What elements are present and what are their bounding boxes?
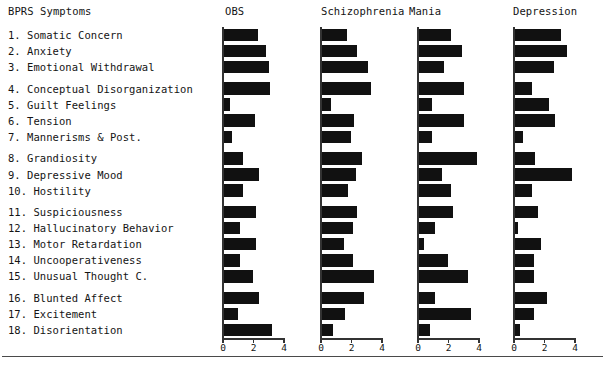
symptom-label: 1. Somatic Concern — [8, 27, 218, 43]
bar — [513, 206, 538, 219]
bar — [222, 45, 266, 58]
bar — [417, 254, 448, 267]
bar-row — [222, 113, 289, 129]
bar-row — [417, 204, 484, 220]
y-axis-line — [222, 27, 224, 338]
x-axis-tick-label: 0 — [511, 342, 517, 353]
bar-row — [222, 290, 289, 306]
bar-row — [320, 252, 387, 268]
symptom-label: 6. Tension — [8, 113, 218, 129]
bar-row — [417, 129, 484, 145]
column-header-mania: Mania — [409, 5, 441, 17]
x-axis-tick-label: 4 — [379, 342, 385, 353]
bar — [417, 168, 442, 181]
x-axis-tick-label: 2 — [251, 342, 257, 353]
x-axis: 024 — [222, 338, 287, 352]
bar-row — [222, 129, 289, 145]
symptom-label: 13. Motor Retardation — [8, 236, 218, 252]
bar-row — [513, 81, 580, 97]
bar — [320, 184, 348, 197]
bar — [513, 238, 541, 251]
bar-row — [320, 129, 387, 145]
bar — [320, 238, 344, 251]
bar — [417, 61, 444, 74]
bar-row — [320, 27, 387, 43]
bar — [417, 292, 435, 305]
bar — [320, 29, 347, 42]
bar-row — [513, 97, 580, 113]
bar — [417, 114, 464, 127]
bar — [222, 114, 255, 127]
symptom-label: 10. Hostility — [8, 183, 218, 199]
bar — [513, 29, 561, 42]
bar-row — [417, 150, 484, 166]
bar-row — [513, 150, 580, 166]
bar-row — [417, 322, 484, 338]
bar — [417, 131, 432, 144]
bar — [513, 168, 572, 181]
bar-row — [320, 59, 387, 75]
x-axis-tick-label: 0 — [220, 342, 226, 353]
bar-row — [513, 183, 580, 199]
bar-row — [320, 290, 387, 306]
chart-panel-depression: 024 — [513, 27, 580, 352]
y-axis-line — [513, 27, 515, 338]
bar-row — [417, 252, 484, 268]
bar-row — [320, 97, 387, 113]
bar — [222, 292, 259, 305]
bar-row — [320, 167, 387, 183]
bar-row — [222, 252, 289, 268]
bar — [222, 168, 259, 181]
bar-row — [513, 290, 580, 306]
bar — [320, 45, 357, 58]
bar — [417, 184, 451, 197]
symptom-label: 15. Unusual Thought C. — [8, 268, 218, 284]
bar-row — [513, 113, 580, 129]
bar — [513, 270, 534, 283]
bar-row — [222, 268, 289, 284]
x-axis-tick-label: 2 — [542, 342, 548, 353]
bar — [222, 206, 256, 219]
bar — [320, 254, 353, 267]
bprs-symptom-profile-figure: BPRS Symptoms OBS Schizophrenia Mania De… — [0, 0, 605, 367]
bar — [320, 206, 357, 219]
bar-row — [222, 27, 289, 43]
bar — [513, 45, 567, 58]
symptom-label: 3. Emotional Withdrawal — [8, 59, 218, 75]
bar — [417, 222, 435, 235]
bar-row — [222, 43, 289, 59]
symptom-label: 12. Hallucinatory Behavior — [8, 220, 218, 236]
page-title: BPRS Symptoms — [8, 5, 91, 17]
bar — [222, 222, 240, 235]
bar — [320, 61, 368, 74]
bar-row — [417, 113, 484, 129]
x-axis-tick-label: 4 — [281, 342, 287, 353]
column-header-depression: Depression — [513, 5, 577, 17]
bar — [417, 45, 462, 58]
bar — [222, 270, 253, 283]
bar — [222, 61, 269, 74]
bar-row — [417, 220, 484, 236]
bar-row — [320, 43, 387, 59]
chart-panel-schizophrenia: 024 — [320, 27, 387, 352]
bar-row — [417, 167, 484, 183]
bar-row — [222, 59, 289, 75]
x-axis-tick-label: 4 — [476, 342, 482, 353]
bar-row — [417, 236, 484, 252]
bar-row — [320, 113, 387, 129]
x-axis-tick-label: 2 — [349, 342, 355, 353]
column-header-schizophrenia: Schizophrenia — [321, 5, 404, 17]
bar — [417, 206, 453, 219]
bar — [513, 184, 532, 197]
bar — [417, 98, 432, 111]
bar — [320, 131, 351, 144]
y-axis-line — [320, 27, 322, 338]
bar — [222, 184, 243, 197]
bar-row — [513, 306, 580, 322]
bar — [320, 114, 354, 127]
x-axis: 024 — [417, 338, 482, 352]
bar — [222, 152, 243, 165]
bar — [320, 292, 364, 305]
bar-row — [417, 59, 484, 75]
x-axis: 024 — [513, 338, 578, 352]
